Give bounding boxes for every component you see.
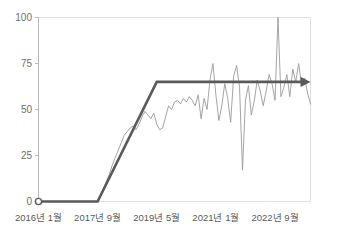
line-chart: 0255075100 2016년 1월2017년 9월2019년 5월2021년… (0, 0, 347, 249)
y-axis-label-50: 50 (21, 104, 33, 115)
x-axis-tick-labels: 2016년 1월2017년 9월2019년 5월2021년 1월2022년 9월 (15, 212, 299, 223)
chart-container: 0255075100 2016년 1월2017년 9월2019년 5월2021년… (0, 0, 347, 249)
y-axis-label-100: 100 (15, 12, 32, 23)
y-axis-label-75: 75 (21, 58, 33, 69)
y-axis-label-25: 25 (21, 150, 33, 161)
y-axis-label-0: 0 (26, 196, 32, 207)
start-point-marker (35, 198, 41, 204)
x-axis-label-2: 2019년 5월 (133, 212, 180, 223)
x-axis-label-0: 2016년 1월 (15, 212, 62, 223)
x-axis-label-3: 2021년 1월 (192, 212, 239, 223)
x-axis-label-1: 2017년 9월 (74, 212, 121, 223)
x-axis-label-4: 2022년 9월 (251, 212, 298, 223)
